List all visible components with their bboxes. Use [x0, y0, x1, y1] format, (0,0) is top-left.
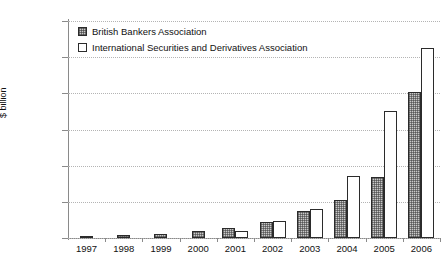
bar-group	[366, 21, 403, 238]
bar-isda	[273, 221, 286, 238]
legend-item-isda: International Securities and Derivatives…	[78, 40, 307, 54]
y-axis-tick	[62, 238, 68, 239]
x-axis-tick	[366, 238, 367, 242]
x-axis-tick	[180, 238, 181, 242]
x-axis-tick-labels: 1997199819992000200120022003200420052006	[68, 243, 440, 261]
bar-bba	[222, 228, 235, 238]
x-axis-tick-label: 2001	[225, 243, 246, 254]
legend-item-bba: British Bankers Association	[78, 24, 307, 38]
bar-bba	[371, 177, 384, 238]
x-axis-tick	[440, 238, 441, 242]
bar-bba	[297, 211, 310, 238]
bar-bba	[260, 222, 273, 238]
y-axis-tick-labels: -5,00010,00015,00020,00025,00030,000	[0, 0, 66, 279]
bar-isda	[347, 176, 360, 238]
bar-isda	[421, 48, 434, 238]
bar-group	[328, 21, 365, 238]
credit-derivatives-bar-chart: -5,00010,00015,00020,00025,00030,000 $ b…	[0, 0, 442, 279]
x-axis-tick-label: 1999	[150, 243, 171, 254]
bar-bba	[334, 200, 347, 238]
bar-isda	[235, 231, 248, 238]
bar-group	[403, 21, 440, 238]
bar-isda	[310, 209, 323, 238]
x-axis-tick-label: 2006	[411, 243, 432, 254]
legend-label-isda: International Securities and Derivatives…	[92, 42, 307, 53]
x-axis-tick-label: 1997	[76, 243, 97, 254]
x-axis-tick	[403, 238, 404, 242]
x-axis-tick	[254, 238, 255, 242]
legend: British Bankers Association Internationa…	[78, 24, 307, 56]
x-axis-tick	[291, 238, 292, 242]
bar-bba	[80, 236, 93, 238]
x-axis-tick	[328, 238, 329, 242]
legend-swatch-isda-icon	[78, 43, 87, 52]
x-axis-tick	[217, 238, 218, 242]
bar-bba	[408, 92, 421, 238]
bar-bba	[192, 231, 205, 238]
legend-swatch-bba-icon	[78, 27, 87, 36]
x-axis-tick	[142, 238, 143, 242]
x-axis-tick-label: 2000	[188, 243, 209, 254]
x-axis-tick-label: 2002	[262, 243, 283, 254]
bar-isda	[384, 111, 397, 238]
x-axis-tick	[105, 238, 106, 242]
y-axis-title: $ billion	[0, 87, 8, 118]
bar-bba	[154, 234, 167, 238]
x-axis-tick-label: 2005	[374, 243, 395, 254]
x-axis-tick-label: 2003	[299, 243, 320, 254]
x-axis-tick-label: 1998	[113, 243, 134, 254]
legend-label-bba: British Bankers Association	[92, 26, 207, 37]
x-axis-tick-label: 2004	[336, 243, 357, 254]
bar-bba	[117, 235, 130, 238]
